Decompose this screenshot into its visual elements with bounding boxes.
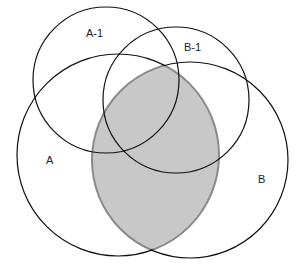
venn-svg: A-1 B-1 A B (0, 0, 299, 271)
label-b: B (258, 173, 265, 185)
venn-diagram: A-1 B-1 A B (0, 0, 299, 271)
label-a: A (46, 154, 54, 166)
label-b-1: B-1 (184, 41, 201, 53)
label-a-1: A-1 (86, 27, 103, 39)
